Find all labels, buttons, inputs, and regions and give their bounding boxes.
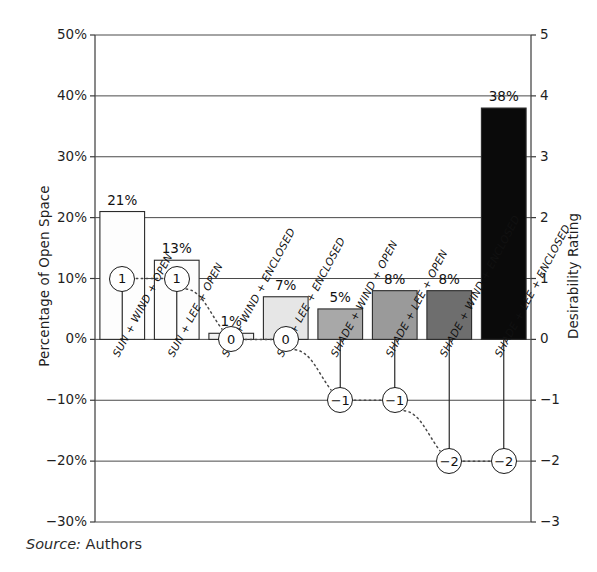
bar-value-label: 21%	[82, 194, 162, 208]
rating-bubble: 1	[164, 266, 190, 292]
source-label: Source:	[26, 536, 81, 552]
rating-bubble: 1	[109, 266, 135, 292]
source-value: Authors	[81, 536, 142, 552]
rating-connector	[404, 411, 440, 451]
rating-bubble: 0	[273, 326, 299, 352]
bar-value-label: 13%	[137, 242, 217, 256]
source-caption: Source: Authors	[26, 536, 142, 552]
rating-bubble: −2	[491, 448, 517, 474]
rating-connector	[295, 350, 331, 390]
chart-figure: Percentage of Open Space Desirability Ra…	[0, 0, 597, 572]
rating-bubble: −1	[382, 387, 408, 413]
bar-value-label: 38%	[464, 90, 544, 104]
